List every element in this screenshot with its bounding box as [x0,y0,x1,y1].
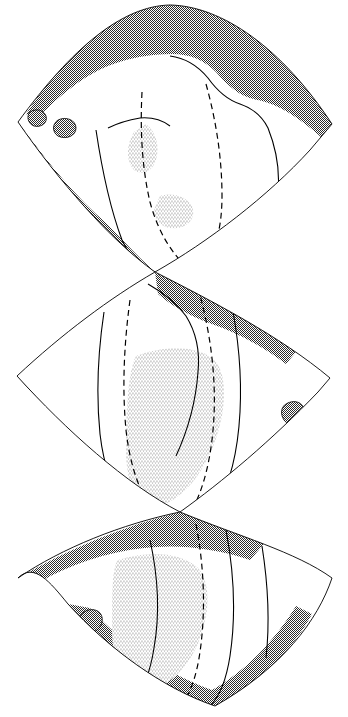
northern-lobe-island-b [54,118,77,137]
northern-lobe-island-a [28,110,46,126]
interrupted-world-map [0,0,348,717]
map-figure: Interrupted three-lobe (butterfly) world… [0,0,348,717]
